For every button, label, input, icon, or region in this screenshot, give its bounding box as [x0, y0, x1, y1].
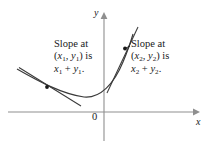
- origin-label: 0: [92, 111, 97, 123]
- slope-annotation-left: Slope at (x1, y1) is x1 + y1.: [54, 38, 92, 76]
- x-axis-label: x: [196, 116, 200, 128]
- y-axis-arrow-icon: [101, 12, 108, 19]
- paren-close-is: ) is: [79, 50, 92, 61]
- slope-annotation-right-line2: (x2, y2) is: [131, 50, 169, 63]
- slope-annotation-left-line1: Slope at: [54, 38, 92, 50]
- slope-annotation-right-line3: x2 + y2.: [131, 63, 169, 76]
- slope-annotation-left-line3: x1 + y1.: [54, 63, 92, 76]
- slope-annotation-right-line1: Slope at: [131, 38, 169, 50]
- tangent-slope-figure: Slope at (x1, y1) is x1 + y1. Slope at (…: [0, 0, 213, 144]
- figure-canvas: [0, 0, 213, 144]
- plus-operator: +: [62, 63, 73, 74]
- y-axis-label: y: [94, 7, 98, 19]
- slope-annotation-right: Slope at (x2, y2) is x2 + y2.: [131, 38, 169, 76]
- plus-operator: +: [139, 63, 150, 74]
- x-axis-arrow-icon: [193, 109, 200, 116]
- period: .: [82, 63, 85, 74]
- y-axis: [101, 12, 108, 141]
- slope-annotation-left-line2: (x1, y1) is: [54, 50, 92, 63]
- paren-close-is: ) is: [156, 50, 169, 61]
- period: .: [159, 63, 162, 74]
- tangent-point-p1: [45, 85, 49, 89]
